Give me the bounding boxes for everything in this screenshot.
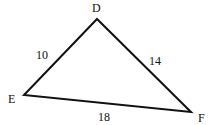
side-label-ed: 10 [36, 48, 48, 62]
vertex-label-e: E [8, 92, 15, 106]
vertex-label-f: F [198, 111, 205, 125]
side-label-df: 14 [149, 54, 161, 68]
triangle-diagram: D E F 10 14 18 [0, 0, 208, 125]
vertex-label-d: D [92, 1, 101, 15]
side-label-ef: 18 [98, 110, 110, 124]
triangle-def [24, 19, 191, 112]
